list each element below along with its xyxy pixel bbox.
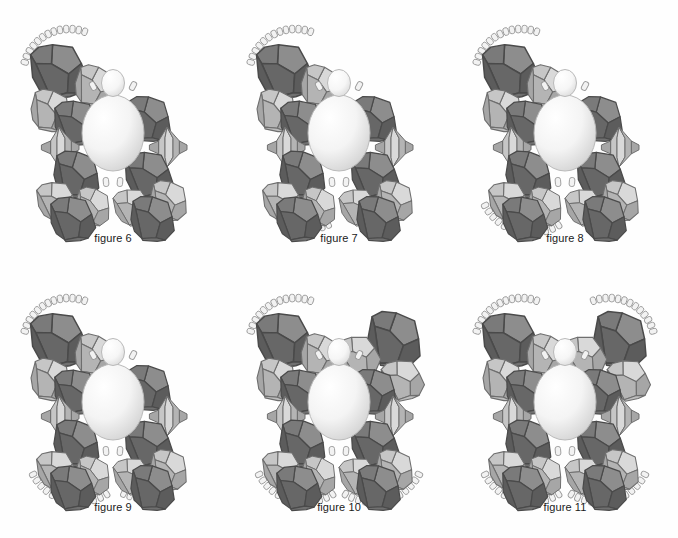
capsule-arc-unit bbox=[75, 295, 82, 304]
capsule-arc-unit bbox=[289, 25, 295, 33]
capsule-linker bbox=[103, 446, 109, 455]
central-sphere bbox=[308, 364, 370, 440]
capsule-linker bbox=[555, 446, 561, 455]
central-sphere bbox=[308, 95, 370, 171]
small-sphere bbox=[554, 339, 577, 366]
diagram-sheet: figure 6figure 7figure 8figure 9figure 1… bbox=[0, 0, 678, 538]
capsule-linker bbox=[355, 81, 364, 91]
capsule-arc-unit bbox=[596, 295, 603, 304]
capsule-linker bbox=[129, 81, 138, 91]
capsule-arc-unit bbox=[533, 27, 540, 36]
panel-figure-8: figure 8 bbox=[452, 0, 678, 269]
panel-figure-6: figure 6 bbox=[0, 0, 226, 269]
panel-figure-7: figure 7 bbox=[226, 0, 452, 269]
figure-caption: figure 8 bbox=[452, 232, 678, 244]
capsule-arc-unit bbox=[522, 25, 528, 33]
capsule-arc-unit bbox=[615, 295, 622, 303]
capsule-arc-unit bbox=[307, 296, 314, 305]
capsule-arc-unit bbox=[289, 294, 295, 302]
capsule-arc-unit bbox=[81, 27, 88, 36]
figure-caption: figure 11 bbox=[452, 501, 678, 513]
figure-caption: figure 10 bbox=[226, 501, 452, 513]
capsule-arc-unit bbox=[70, 294, 76, 302]
capsule-arc-unit bbox=[75, 26, 82, 35]
capsule-arc-unit bbox=[81, 296, 88, 305]
capsule-arc-unit bbox=[590, 296, 597, 305]
central-sphere bbox=[534, 364, 596, 440]
capsule-arc-unit bbox=[609, 294, 615, 302]
capsule-arc-unit bbox=[283, 295, 290, 303]
central-sphere bbox=[82, 364, 144, 440]
capsule-arc-unit bbox=[296, 294, 302, 302]
figure-artwork-figure-10 bbox=[226, 269, 452, 514]
capsule-arc-unit bbox=[522, 294, 528, 302]
figure-caption: figure 9 bbox=[0, 501, 226, 513]
central-sphere bbox=[534, 95, 596, 171]
figure-artwork-figure-7 bbox=[226, 0, 452, 245]
capsule-arc-unit bbox=[283, 26, 290, 34]
panel-figure-10: figure 10 bbox=[226, 269, 452, 538]
small-sphere bbox=[102, 70, 125, 97]
capsule-arc-unit bbox=[63, 294, 69, 302]
capsule-arc-unit bbox=[301, 295, 308, 304]
capsule-linker bbox=[343, 177, 349, 186]
capsule-arc-unit bbox=[527, 26, 534, 35]
panel-figure-9: figure 9 bbox=[0, 269, 226, 538]
capsule-linker bbox=[129, 350, 138, 360]
capsule-linker bbox=[569, 446, 575, 455]
small-sphere bbox=[554, 70, 577, 97]
capsule-arc-unit bbox=[509, 26, 516, 34]
capsule-arc-unit bbox=[527, 295, 534, 304]
capsule-linker bbox=[329, 446, 335, 455]
figure-caption: figure 7 bbox=[226, 232, 452, 244]
capsule-linker bbox=[117, 177, 123, 186]
figure-artwork-figure-8 bbox=[452, 0, 678, 245]
capsule-linker bbox=[569, 177, 575, 186]
figure-artwork-figure-9 bbox=[0, 269, 226, 514]
capsule-arc-unit bbox=[57, 26, 64, 34]
capsule-arc-unit bbox=[296, 25, 302, 33]
capsule-arc-unit bbox=[509, 295, 516, 303]
figure-caption: figure 6 bbox=[0, 232, 226, 244]
capsule-linker bbox=[329, 177, 335, 186]
capsule-arc-unit bbox=[301, 26, 308, 35]
figure-artwork-figure-6 bbox=[0, 0, 226, 245]
capsule-arc-unit bbox=[603, 294, 609, 302]
capsule-arc-unit bbox=[57, 295, 64, 303]
capsule-arc-unit bbox=[307, 27, 314, 36]
capsule-arc-unit bbox=[533, 296, 540, 305]
small-sphere bbox=[102, 339, 125, 366]
capsule-arc-unit bbox=[515, 25, 521, 33]
capsule-arc-unit bbox=[63, 25, 69, 33]
capsule-arc-unit bbox=[70, 25, 76, 33]
capsule-linker bbox=[103, 177, 109, 186]
panel-figure-11: figure 11 bbox=[452, 269, 678, 538]
capsule-linker bbox=[555, 177, 561, 186]
capsule-arc-unit bbox=[515, 294, 521, 302]
small-sphere bbox=[328, 70, 351, 97]
capsule-linker bbox=[117, 446, 123, 455]
capsule-linker bbox=[343, 446, 349, 455]
small-sphere bbox=[328, 339, 351, 366]
central-sphere bbox=[82, 95, 144, 171]
figure-artwork-figure-11 bbox=[452, 269, 678, 514]
capsule-linker bbox=[581, 81, 590, 91]
